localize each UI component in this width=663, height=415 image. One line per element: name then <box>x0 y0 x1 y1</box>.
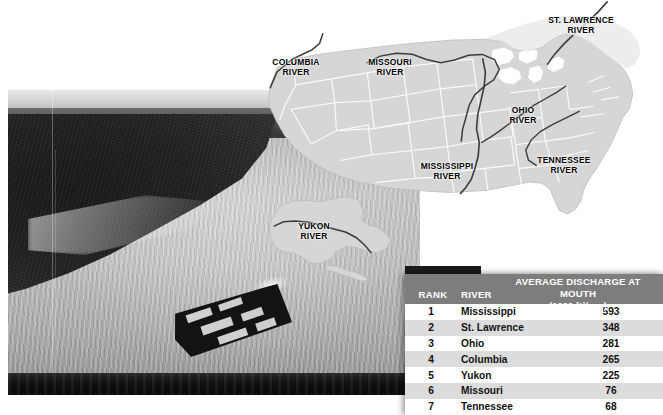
map-label-st-lawrence: ST. LAWRENCE RIVER <box>540 16 622 35</box>
photo-film-scratch <box>52 90 53 395</box>
cell-value: 76 <box>565 385 657 396</box>
cell-river: St. Lawrence <box>457 322 565 333</box>
cell-river: Columbia <box>457 354 565 365</box>
cell-rank: 7 <box>405 401 457 412</box>
cell-river: Missouri <box>457 385 565 396</box>
map-svg <box>250 0 663 285</box>
cell-value: 68 <box>565 401 657 412</box>
map-label-tennessee: TENNESSEE RIVER <box>528 156 600 175</box>
cell-rank: 4 <box>405 354 457 365</box>
cell-river: Ohio <box>457 338 565 349</box>
photo-film-scratch-secondary <box>55 150 56 350</box>
table-row: 6 Missouri 76 <box>405 383 663 399</box>
table-header-row: AVERAGE DISCHARGE AT MOUTH (1000 ft³/sec… <box>405 274 663 304</box>
table-row: 2 St. Lawrence 348 <box>405 320 663 336</box>
map-label-columbia: COLUMBIA RIVER <box>264 58 328 77</box>
cell-rank: 1 <box>405 306 457 317</box>
cell-rank: 6 <box>405 385 457 396</box>
cell-rank: 5 <box>405 370 457 381</box>
table-row: 7 Tennessee 68 <box>405 399 663 415</box>
table-header-river: RIVER <box>461 289 492 300</box>
table-header-measure: AVERAGE DISCHARGE AT MOUTH (1000 ft³/sec… <box>501 276 655 312</box>
table-row: 5 Yukon 225 <box>405 367 663 383</box>
cell-rank: 3 <box>405 338 457 349</box>
map-label-mississippi: MISSISSIPPI RIVER <box>410 162 484 181</box>
cell-value: 225 <box>565 370 657 381</box>
cell-value: 348 <box>565 322 657 333</box>
photo-bottom-band-texture <box>8 373 420 395</box>
map-label-ohio: OHIO RIVER <box>498 106 548 125</box>
cell-river: Yukon <box>457 370 565 381</box>
map-alaska-aleutians <box>324 263 369 283</box>
cell-value: 265 <box>565 354 657 365</box>
table-header-rank: RANK <box>409 289 457 300</box>
cell-river: Tennessee <box>457 401 565 412</box>
map-label-yukon: YUKON RIVER <box>288 222 340 241</box>
united-states-river-map: COLUMBIA RIVER MISSOURI RIVER ST. LAWREN… <box>250 0 663 285</box>
table-row: 3 Ohio 281 <box>405 336 663 352</box>
river-discharge-table: AVERAGE DISCHARGE AT MOUTH (1000 ft³/sec… <box>405 274 663 415</box>
table-row: 4 Columbia 265 <box>405 351 663 367</box>
map-label-missouri: MISSOURI RIVER <box>358 58 422 77</box>
table-header-measure-line1: AVERAGE DISCHARGE AT MOUTH <box>501 276 655 300</box>
table-header-measure-units: (1000 ft³/sec) <box>501 300 655 312</box>
cell-value: 281 <box>565 338 657 349</box>
cell-rank: 2 <box>405 322 457 333</box>
